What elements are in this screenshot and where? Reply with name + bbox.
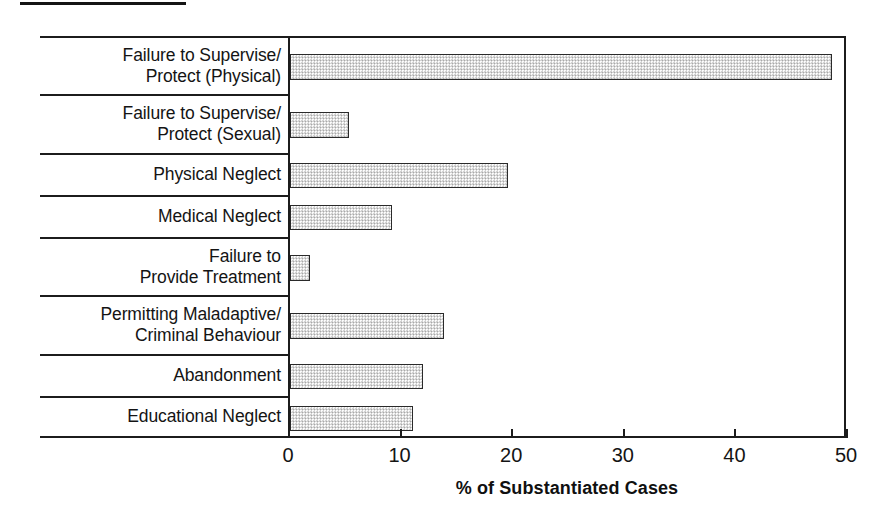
bar (290, 406, 413, 431)
category-label: Failure to Provide Treatment (140, 246, 288, 288)
bar (290, 255, 310, 281)
x-axis-tick (846, 429, 848, 438)
chart-plot-area: Failure to Supervise/ Protect (Physical)… (40, 36, 846, 438)
category-row: Physical Neglect (40, 153, 288, 195)
category-row: Failure to Supervise/ Protect (Physical) (40, 36, 288, 94)
category-label: Abandonment (173, 365, 288, 386)
x-axis-tick-label: 30 (612, 444, 634, 467)
x-axis-tick (400, 429, 402, 438)
category-row: Permitting Maladaptive/ Criminal Behavio… (40, 295, 288, 353)
bar (290, 163, 508, 188)
category-row: Abandonment (40, 354, 288, 396)
bar (290, 364, 423, 389)
x-axis-tick (623, 429, 625, 438)
x-axis-tick (511, 429, 513, 438)
category-label: Failure to Supervise/ Protect (Sexual) (123, 103, 288, 145)
x-axis-tick-label: 40 (723, 444, 745, 467)
x-axis-tick-label: 50 (835, 444, 857, 467)
bar-chart-figure: Failure to Supervise/ Protect (Physical)… (0, 0, 884, 520)
x-axis-title: % of Substantiated Cases (288, 478, 846, 499)
bar (290, 313, 444, 339)
bar (290, 205, 392, 230)
category-row: Failure to Supervise/ Protect (Sexual) (40, 94, 288, 152)
plot-frame (288, 36, 846, 438)
bar (290, 112, 349, 138)
category-label: Failure to Supervise/ Protect (Physical) (123, 45, 288, 87)
top-divider-rule (20, 2, 186, 5)
x-axis-tick (734, 429, 736, 438)
x-axis: 01020304050 (288, 438, 846, 439)
x-axis-tick-label: 0 (282, 444, 293, 467)
bar (290, 54, 832, 80)
category-row: Failure to Provide Treatment (40, 237, 288, 295)
category-label: Educational Neglect (127, 406, 288, 427)
category-label: Medical Neglect (158, 206, 288, 227)
category-label: Permitting Maladaptive/ Criminal Behavio… (100, 304, 288, 346)
x-axis-tick-label: 10 (388, 444, 410, 467)
x-axis-tick-label: 20 (500, 444, 522, 467)
x-axis-tick (288, 429, 290, 438)
category-label-column: Failure to Supervise/ Protect (Physical)… (40, 36, 288, 438)
category-label: Physical Neglect (153, 164, 288, 185)
category-row: Educational Neglect (40, 396, 288, 438)
category-row: Medical Neglect (40, 195, 288, 237)
